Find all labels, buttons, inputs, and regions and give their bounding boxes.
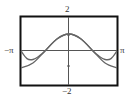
plot-area [0,0,130,98]
x-max-label: π [120,46,125,55]
x-min-label: −π [4,46,14,55]
y-max-label: 2 [65,5,70,14]
y-min-label: −2 [62,87,72,96]
